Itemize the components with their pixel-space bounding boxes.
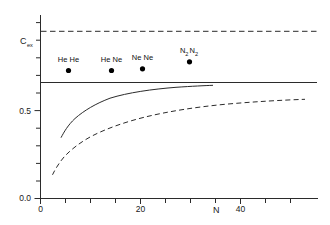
- x-axis-tick-label-zero: 0: [38, 204, 43, 214]
- n2-n2-label-first-subscript: 2: [185, 51, 188, 57]
- y-axis-title: C ex: [20, 36, 33, 48]
- y-tick-marks: [35, 23, 41, 199]
- data-point-label-ne-ne: Ne Ne: [132, 53, 153, 62]
- data-point-label-he-ne: He Ne: [101, 55, 122, 64]
- data-point-n2-n2: [187, 59, 192, 64]
- data-point-label-n2-n2: N 2 N 2: [180, 46, 198, 56]
- x-axis-tick-label-twenty: 20: [136, 204, 146, 214]
- x-axis-title: N: [213, 205, 220, 215]
- data-point-he-ne: [109, 68, 114, 73]
- y-axis-tick-label-zero: 0.0: [19, 193, 31, 203]
- x-tick-marks: [41, 199, 291, 205]
- x-axis-tick-label-forty: 40: [236, 204, 246, 214]
- data-point-ne-ne: [140, 66, 145, 71]
- data-points-group: [66, 59, 192, 73]
- lower-dashed-curve: [53, 99, 306, 175]
- y-axis-title-subscript: ex: [27, 42, 33, 48]
- axes-group: [41, 15, 319, 199]
- upper-solid-curve: [61, 85, 213, 137]
- y-axis-title-base: C: [20, 36, 27, 46]
- data-point-he-he: [66, 68, 71, 73]
- chart-canvas: 0.0 0.5 0 20 40 C ex N He He He Ne Ne Ne…: [0, 0, 330, 225]
- data-point-label-he-he: He He: [58, 55, 79, 64]
- chart-figure: 0.0 0.5 0 20 40 C ex N He He He Ne Ne Ne…: [0, 0, 330, 225]
- n2-n2-label-second-subscript: 2: [195, 51, 198, 57]
- y-axis-tick-label-half: 0.5: [19, 106, 31, 116]
